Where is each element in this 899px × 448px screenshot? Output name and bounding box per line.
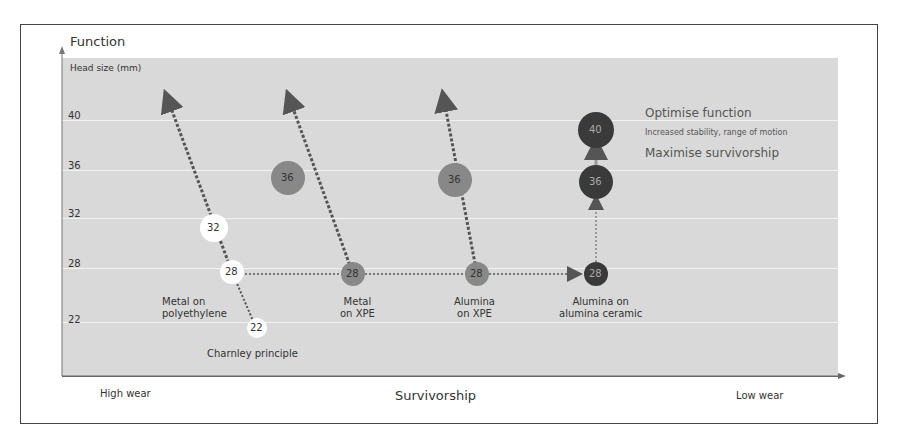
label-alumina-on-xpe: Alumina on XPE bbox=[454, 296, 495, 320]
x-axis-title: Survivorship bbox=[395, 388, 476, 403]
label-metal-on-polyethylene: Metal on polyethylene bbox=[162, 296, 227, 320]
point-36-axpe: 36 bbox=[448, 174, 461, 185]
y-tick-22: 22 bbox=[68, 314, 81, 325]
annotation-maximise: Maximise survivorship bbox=[645, 146, 779, 160]
y-tick-40: 40 bbox=[68, 110, 81, 121]
function-label: Function bbox=[70, 34, 125, 49]
x-label-low-wear: Low wear bbox=[736, 390, 783, 401]
point-28-axpe: 28 bbox=[470, 268, 483, 279]
point-32: 32 bbox=[207, 222, 220, 233]
y-tick-32: 32 bbox=[68, 208, 81, 219]
label-charnley: Charnley principle bbox=[207, 348, 298, 359]
x-label-high-wear: High wear bbox=[100, 388, 151, 399]
y-tick-36: 36 bbox=[68, 160, 81, 171]
point-28-mxpe: 28 bbox=[346, 268, 359, 279]
point-36-aoa: 36 bbox=[589, 176, 602, 187]
point-28-mop: 28 bbox=[225, 266, 238, 277]
point-36-mxpe: 36 bbox=[281, 172, 294, 183]
y-tick-28: 28 bbox=[68, 258, 81, 269]
point-40-aoa: 40 bbox=[589, 124, 602, 135]
point-28-aoa: 28 bbox=[589, 268, 602, 279]
label-metal-on-xpe: Metal on XPE bbox=[340, 296, 375, 320]
point-22: 22 bbox=[250, 322, 263, 333]
annotation-stability: Increased stability, range of motion bbox=[645, 128, 787, 137]
annotation-optimise: Optimise function bbox=[645, 106, 752, 120]
label-alumina-on-alumina: Alumina on alumina ceramic bbox=[559, 296, 642, 320]
head-size-label: Head size (mm) bbox=[70, 63, 141, 73]
